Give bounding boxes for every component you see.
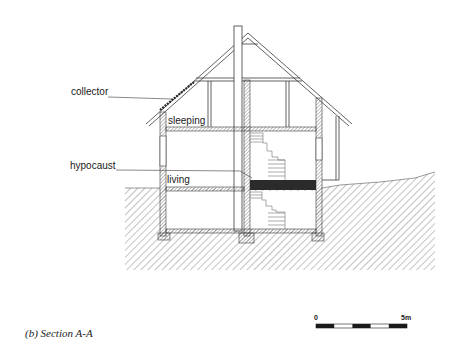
- leader-lines: [108, 97, 252, 178]
- label-hypocaust: hypocaust: [70, 160, 116, 171]
- scale-bar: 0 5m: [314, 314, 411, 328]
- figure-caption: (b) Section A-A: [25, 327, 93, 340]
- label-living: living: [167, 174, 190, 185]
- solar-collector: [160, 82, 194, 110]
- label-collector: collector: [71, 86, 109, 97]
- scale-end-label: 5m: [401, 314, 411, 321]
- scale-start-label: 0: [314, 314, 318, 321]
- section-drawing: collector sleeping hypocaust living (b) …: [0, 0, 455, 364]
- hypocaust-slab: [250, 180, 316, 190]
- label-sleeping: sleeping: [168, 115, 205, 126]
